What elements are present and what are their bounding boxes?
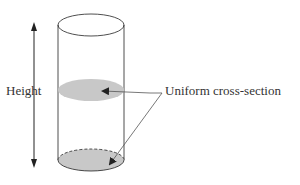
cylinder-shape (58, 14, 124, 171)
middle-cross-section (58, 79, 124, 101)
height-label: Height (6, 83, 41, 99)
cross-section-label: Uniform cross-section (165, 83, 281, 99)
cylinder-diagram: Height Uniform cross-section (0, 0, 300, 185)
